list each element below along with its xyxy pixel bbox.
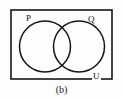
set-p-circle bbox=[20, 21, 71, 72]
figure-caption: (b) bbox=[0, 84, 123, 95]
set-p-label: P bbox=[26, 14, 31, 23]
universal-set-label: U bbox=[92, 72, 101, 81]
set-q-circle bbox=[54, 21, 105, 72]
set-q-label: Q bbox=[88, 15, 95, 24]
venn-diagram-figure: P Q U (b) bbox=[0, 0, 123, 100]
